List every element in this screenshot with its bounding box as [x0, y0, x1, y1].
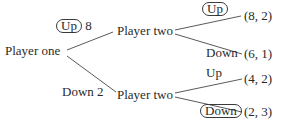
outcome-4: (2, 3)	[244, 105, 272, 119]
outcome-1: (8, 2)	[244, 9, 272, 23]
move-upper-up: Up	[202, 2, 228, 16]
node-player-two-lower: Player two	[117, 88, 173, 102]
edge-p2b-up	[175, 79, 242, 93]
outcome-2: (6, 1)	[244, 47, 272, 61]
node-player-two-upper: Player two	[117, 24, 173, 38]
move-lower-down: Down	[200, 104, 242, 118]
circled-move-down: Down	[200, 104, 242, 118]
node-player-one: Player one	[5, 44, 60, 58]
move-upper-down: Down	[206, 46, 238, 60]
branch-label-down: Down 2	[62, 85, 104, 99]
circled-move-up: Up	[202, 2, 228, 16]
branch-value: 8	[85, 18, 92, 33]
move-down: Down	[62, 84, 94, 99]
outcome-3: (4, 2)	[244, 72, 272, 86]
edge-p1-up	[67, 32, 113, 50]
branch-label-up: Up 8	[56, 19, 92, 33]
circled-move-up: Up	[56, 19, 82, 33]
edge-p2a-up	[175, 16, 241, 30]
move-lower-up: Up	[206, 66, 222, 80]
branch-value: 2	[97, 84, 104, 99]
